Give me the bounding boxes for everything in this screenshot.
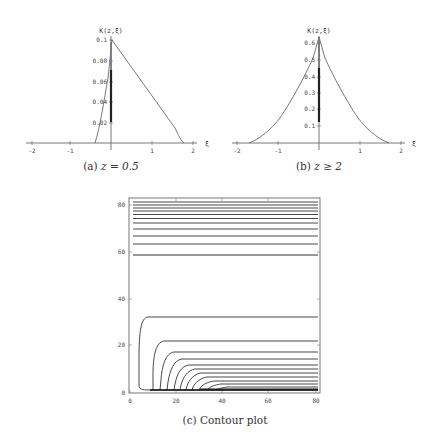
panel-c-plot: 80 60 40 20 0 0 20 40 60 80 bbox=[118, 198, 320, 404]
x-tick: -1 bbox=[66, 147, 74, 154]
y-tick: 80 bbox=[118, 201, 126, 208]
y-tick: 20 bbox=[118, 341, 126, 348]
caption-a: (a) z = 0.5 bbox=[83, 160, 139, 172]
y-tick: 40 bbox=[118, 295, 126, 302]
caption-c: (c) Contour plot bbox=[183, 414, 269, 426]
y-tick: 0.6 bbox=[304, 39, 315, 46]
x-tick: -1 bbox=[274, 147, 282, 154]
plot-frame bbox=[129, 198, 320, 393]
y-tick: 0.1 bbox=[96, 36, 107, 43]
x-tick: 1 bbox=[358, 147, 362, 154]
y-tick: 0.04 bbox=[93, 98, 108, 105]
corner-contours bbox=[139, 317, 318, 390]
y-tick: 0.08 bbox=[93, 57, 108, 64]
y-tick: 60 bbox=[118, 248, 126, 255]
x-tick: 1 bbox=[150, 147, 154, 154]
y-tick: 0.2 bbox=[304, 105, 315, 112]
x-axis-label: ξ bbox=[205, 140, 209, 148]
x-tick: 20 bbox=[172, 397, 180, 404]
x-axis-label: ξ bbox=[412, 140, 416, 148]
figure: -2 -1 1 2 0.1 0.08 0.06 0.04 0.02 K(z,ξ)… bbox=[0, 0, 434, 444]
panel-b-plot: -2 -1 1 2 0.6 0.5 0.4 0.3 0.2 0.1 K(z,ξ)… bbox=[232, 27, 416, 154]
x-tick: 2 bbox=[191, 147, 195, 154]
y-axis-label: K(z,ξ) bbox=[99, 27, 122, 35]
x-tick: 40 bbox=[218, 397, 226, 404]
x-tick: 2 bbox=[399, 147, 403, 154]
x-tick: 60 bbox=[264, 397, 272, 404]
horizontal-contours bbox=[133, 202, 318, 255]
y-tick: 0 bbox=[121, 389, 125, 396]
y-tick: 0.1 bbox=[304, 122, 315, 129]
y-tick: 0.06 bbox=[93, 78, 108, 85]
y-tick: 0.3 bbox=[304, 89, 315, 96]
x-tick: 80 bbox=[312, 397, 320, 404]
x-tick: 0 bbox=[128, 397, 132, 404]
x-tick: -2 bbox=[28, 147, 36, 154]
panel-a-plot: -2 -1 1 2 0.1 0.08 0.06 0.04 0.02 K(z,ξ)… bbox=[26, 27, 209, 154]
caption-b: (b) z ≥ 2 bbox=[296, 160, 342, 172]
y-axis-label: K(z,ξ) bbox=[307, 27, 330, 35]
x-tick: -2 bbox=[233, 147, 241, 154]
k-curve bbox=[95, 40, 184, 143]
